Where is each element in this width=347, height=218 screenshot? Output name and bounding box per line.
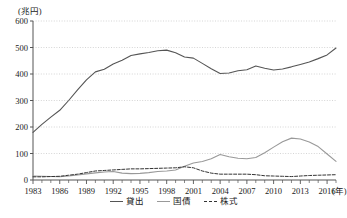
y-axis-tick-label: 100 bbox=[15, 149, 28, 159]
legend-item-stocks[interactable]: 株式 bbox=[204, 197, 238, 206]
x-axis-tick-label: 1989 bbox=[78, 186, 95, 196]
chart-plot-area: 0100200300400500600198319861989199219951… bbox=[0, 0, 347, 218]
x-axis-tick-label: 1986 bbox=[51, 186, 68, 196]
legend-item-loans[interactable]: 貸出 bbox=[110, 197, 144, 206]
chart-legend: 貸出 国債 株式 bbox=[0, 197, 347, 206]
legend-swatch-loans bbox=[110, 201, 123, 202]
legend-swatch-government-bonds bbox=[157, 201, 170, 202]
series-line-0 bbox=[33, 48, 336, 132]
x-axis-tick-label: 1998 bbox=[158, 186, 175, 196]
x-axis-unit-label: (年) bbox=[332, 186, 347, 196]
legend-swatch-stocks bbox=[204, 201, 217, 202]
x-axis-tick-label: 2001 bbox=[185, 186, 202, 196]
x-axis-tick-label: 2010 bbox=[265, 186, 282, 196]
x-axis-tick-label: 1992 bbox=[105, 186, 122, 196]
y-axis-tick-label: 600 bbox=[15, 16, 28, 26]
chart-container: (兆円) 01002003004005006001983198619891992… bbox=[0, 0, 347, 218]
x-axis-tick-label: 1983 bbox=[25, 186, 42, 196]
y-axis-tick-label: 400 bbox=[15, 69, 28, 79]
y-axis-tick-label: 500 bbox=[15, 43, 28, 53]
y-axis-tick-label: 300 bbox=[15, 96, 28, 106]
x-axis-tick-label: 2007 bbox=[238, 186, 255, 196]
legend-label-loans: 貸出 bbox=[126, 197, 144, 206]
series-line-1 bbox=[33, 138, 336, 177]
legend-label-government-bonds: 国債 bbox=[173, 197, 191, 206]
x-axis-tick-label: 2004 bbox=[212, 186, 230, 196]
y-axis-tick-label: 0 bbox=[24, 175, 28, 185]
legend-label-stocks: 株式 bbox=[220, 197, 238, 206]
x-axis-tick-label: 2013 bbox=[292, 186, 309, 196]
y-axis-tick-label: 200 bbox=[15, 122, 28, 132]
x-axis-tick-label: 1995 bbox=[131, 186, 148, 196]
legend-item-government-bonds[interactable]: 国債 bbox=[157, 197, 191, 206]
